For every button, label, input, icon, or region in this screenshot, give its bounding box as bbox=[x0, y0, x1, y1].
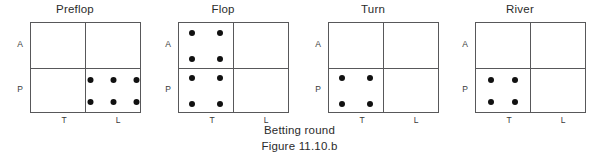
panel-title: River bbox=[445, 2, 595, 16]
panel-row: Preflop A P bbox=[0, 0, 599, 120]
dot-marker bbox=[512, 77, 518, 83]
quadrant-p-t bbox=[31, 69, 85, 113]
row-label-a: A bbox=[311, 39, 325, 49]
quadrant-p-l bbox=[86, 69, 141, 113]
dot-marker bbox=[217, 101, 223, 107]
dot-marker bbox=[111, 99, 117, 105]
dot-cluster bbox=[328, 65, 384, 117]
quadrant-a-l bbox=[234, 23, 289, 68]
quadrant-a-t bbox=[476, 23, 530, 68]
row-label-p: P bbox=[13, 84, 27, 94]
dot-marker bbox=[134, 99, 140, 105]
dot-marker bbox=[367, 101, 373, 107]
dot-marker bbox=[88, 77, 94, 83]
panel-river: River A P T L bbox=[445, 0, 595, 120]
row-label-a: A bbox=[13, 39, 27, 49]
quadrant-a-t bbox=[179, 23, 233, 68]
dot-cluster bbox=[178, 65, 234, 117]
dot-marker bbox=[512, 99, 518, 105]
dot-marker bbox=[339, 101, 345, 107]
dot-marker bbox=[111, 77, 117, 83]
quadrant-a-l bbox=[86, 23, 141, 68]
row-label-a: A bbox=[458, 39, 472, 49]
row-label-p: P bbox=[161, 84, 175, 94]
quadrant-a-l bbox=[531, 23, 586, 68]
quadrant-p-t bbox=[329, 69, 383, 113]
quadrant-p-t bbox=[476, 69, 530, 113]
dot-marker bbox=[189, 75, 195, 81]
quadrant-p-l bbox=[384, 69, 439, 113]
quadrant-a-t bbox=[329, 23, 383, 68]
figure-caption: Betting round Figure 11.10.b bbox=[0, 122, 599, 154]
row-label-p: P bbox=[311, 84, 325, 94]
dot-marker bbox=[189, 56, 195, 62]
dot-marker bbox=[217, 56, 223, 62]
dot-marker bbox=[189, 101, 195, 107]
dot-marker bbox=[488, 99, 494, 105]
dot-marker bbox=[339, 75, 345, 81]
dot-marker bbox=[217, 75, 223, 81]
quadrant-a-l bbox=[384, 23, 439, 68]
dot-marker bbox=[88, 99, 94, 105]
quadrant-grid bbox=[178, 22, 289, 113]
quadrant-grid bbox=[475, 22, 586, 113]
panel-title: Turn bbox=[298, 2, 448, 16]
quadrant-p-l bbox=[531, 69, 586, 113]
dot-cluster bbox=[479, 69, 527, 113]
row-label-p: P bbox=[458, 84, 472, 94]
dot-cluster bbox=[79, 69, 148, 113]
figure-container: Preflop A P bbox=[0, 0, 599, 158]
quadrant-p-t bbox=[179, 69, 233, 113]
quadrant-grid bbox=[30, 22, 141, 113]
quadrant-a-t bbox=[31, 23, 85, 68]
dot-marker bbox=[134, 77, 140, 83]
dot-cluster bbox=[178, 20, 234, 72]
panel-flop: Flop A P bbox=[148, 0, 298, 120]
dot-marker bbox=[189, 30, 195, 36]
caption-figure-number: Figure 11.10.b bbox=[0, 138, 599, 154]
dot-marker bbox=[367, 75, 373, 81]
quadrant-p-l bbox=[234, 69, 289, 113]
panel-preflop: Preflop A P bbox=[0, 0, 150, 120]
panel-title: Preflop bbox=[0, 2, 150, 16]
dot-marker bbox=[217, 30, 223, 36]
panel-turn: Turn A P T L bbox=[298, 0, 448, 120]
row-label-a: A bbox=[161, 39, 175, 49]
quadrant-grid bbox=[328, 22, 439, 113]
dot-marker bbox=[488, 77, 494, 83]
caption-title: Betting round bbox=[0, 122, 599, 138]
panel-title: Flop bbox=[148, 2, 298, 16]
